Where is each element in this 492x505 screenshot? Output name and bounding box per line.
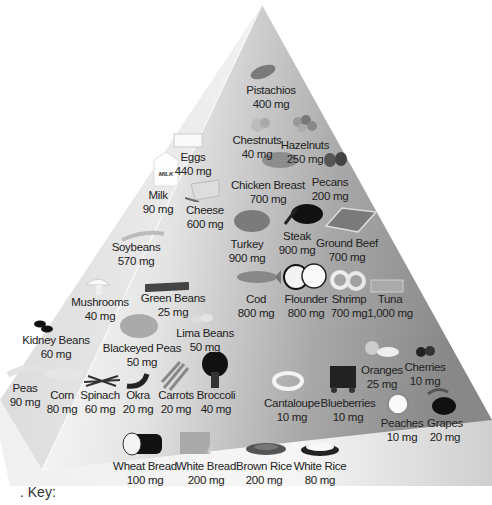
item-value: 900 mg: [279, 243, 316, 257]
item-value: 40 mg: [232, 147, 281, 161]
item-eggs: Eggs440 mg: [175, 150, 212, 178]
item-steak: Steak900 mg: [279, 229, 316, 257]
item-name: Grapes: [427, 416, 463, 430]
cheese-icon: [185, 176, 223, 202]
item-brown-rice: Brown Rice200 mg: [236, 459, 292, 487]
item-name: Ground Beef: [316, 236, 378, 250]
item-name: Lima Beans: [176, 326, 234, 340]
item-name: Kidney Beans: [22, 333, 89, 347]
item-chicken-breast: Chicken Breast700 mg: [231, 178, 305, 206]
item-name: Brown Rice: [236, 459, 292, 473]
blueberries-icon: [326, 364, 360, 394]
item-oranges: Oranges25 mg: [361, 363, 403, 391]
item-name: Spinach: [80, 388, 119, 402]
item-value: 20 mg: [158, 402, 194, 416]
brown-rice-icon: [244, 442, 288, 458]
item-blueberries: Blueberries10 mg: [321, 396, 376, 424]
item-value: 570 mg: [112, 254, 161, 268]
peaches-icon: [386, 392, 410, 416]
item-broccoli: Broccoli40 mg: [197, 388, 236, 416]
white-bread-icon: [178, 430, 222, 456]
item-name: Flounder: [285, 292, 328, 306]
item-value: 20 mg: [427, 430, 463, 444]
item-value: 25 mg: [141, 305, 205, 319]
item-name: Cantaloupe: [264, 396, 320, 410]
item-flounder: Flounder800 mg: [285, 292, 328, 320]
item-white-rice: White Rice80 mg: [294, 459, 347, 487]
item-okra: Okra20 mg: [123, 388, 153, 416]
turkey-icon: [232, 208, 272, 234]
item-name: Wheat Bread: [113, 459, 177, 473]
white-rice-icon: [298, 442, 342, 458]
item-grapes: Grapes20 mg: [427, 416, 463, 444]
item-name: Milk: [143, 188, 173, 202]
item-value: 800 mg: [285, 306, 328, 320]
grapes-icon: [424, 386, 460, 418]
cherries-icon: [414, 344, 438, 358]
item-name: Peas: [10, 381, 40, 395]
item-name: Steak: [279, 229, 316, 243]
item-name: Green Beans: [141, 291, 205, 305]
item-name: Cheese: [186, 203, 224, 217]
item-value: 50 mg: [176, 340, 234, 354]
item-value: 10 mg: [381, 430, 424, 444]
item-value: 250 mg: [281, 152, 329, 166]
item-value: 60 mg: [80, 402, 119, 416]
item-pecans: Pecans200 mg: [312, 175, 349, 203]
item-value: 400 mg: [246, 97, 295, 111]
item-name: Tuna: [367, 292, 413, 306]
item-name: Turkey: [229, 237, 266, 251]
item-mushrooms: Mushrooms40 mg: [71, 295, 128, 323]
item-value: 100 mg: [113, 473, 177, 487]
item-value: 50 mg: [103, 355, 181, 369]
item-value: 10 mg: [404, 374, 445, 388]
oranges-icon: [364, 340, 400, 360]
item-value: 700 mg: [331, 306, 368, 320]
item-value: 700 mg: [316, 250, 378, 264]
item-peaches: Peaches10 mg: [381, 416, 424, 444]
key-label: . Key:: [20, 484, 56, 500]
item-name: Soybeans: [112, 240, 161, 254]
item-name: Shrimp: [331, 292, 368, 306]
item-cod: Cod800 mg: [238, 292, 275, 320]
item-value: 40 mg: [71, 309, 128, 323]
item-cherries: Cherries10 mg: [404, 360, 445, 388]
eggs-icon: [172, 128, 206, 150]
item-pistachios: Pistachios400 mg: [246, 83, 295, 111]
item-name: Chicken Breast: [231, 178, 305, 192]
item-name: Eggs: [175, 150, 212, 164]
item-name: Hazelnuts: [281, 138, 329, 152]
item-value: 600 mg: [186, 217, 224, 231]
item-value: 60 mg: [22, 347, 89, 361]
item-peas: Peas90 mg: [10, 381, 40, 409]
item-name: Broccoli: [197, 388, 236, 402]
item-cheese: Cheese600 mg: [186, 203, 224, 231]
hazelnuts-icon: [290, 112, 320, 134]
item-value: 1,000 mg: [367, 306, 413, 320]
item-value: 90 mg: [10, 395, 40, 409]
item-value: 10 mg: [321, 410, 376, 424]
item-spinach: Spinach60 mg: [80, 388, 119, 416]
item-soybeans: Soybeans570 mg: [112, 240, 161, 268]
item-chestnuts: Chestnuts40 mg: [232, 133, 281, 161]
item-value: 200 mg: [236, 473, 292, 487]
mushrooms-icon: [84, 273, 114, 297]
item-wheat-bread: Wheat Bread100 mg: [113, 459, 177, 487]
item-value: 200 mg: [312, 189, 349, 203]
item-value: 800 mg: [238, 306, 275, 320]
item-value: 40 mg: [197, 402, 236, 416]
chestnuts-icon: [248, 115, 272, 133]
item-name: Corn: [47, 388, 77, 402]
item-name: Oranges: [361, 363, 403, 377]
item-value: 900 mg: [229, 251, 266, 265]
item-name: Pecans: [312, 175, 349, 189]
item-value: 90 mg: [143, 202, 173, 216]
item-value: 440 mg: [175, 164, 212, 178]
item-blackeyed-peas: Blackeyed Peas50 mg: [103, 341, 181, 369]
item-value: 25 mg: [361, 377, 403, 391]
item-tuna: Tuna1,000 mg: [367, 292, 413, 320]
item-ground-beef: Ground Beef700 mg: [316, 236, 378, 264]
item-name: White Bread: [176, 459, 236, 473]
item-name: Carrots: [158, 388, 194, 402]
pistachios-icon: [248, 64, 278, 80]
